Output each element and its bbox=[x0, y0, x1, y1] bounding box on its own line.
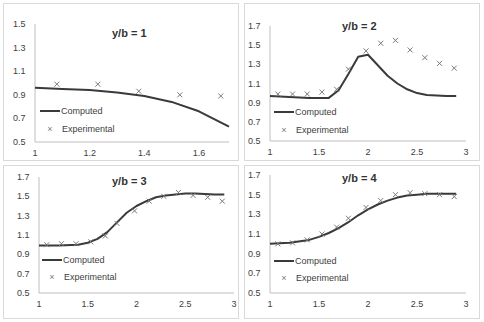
y-tick-label: 0.5 bbox=[13, 137, 26, 147]
legend-experimental-label: Experimental bbox=[62, 124, 115, 134]
x-tick-label: 2.5 bbox=[411, 299, 424, 309]
legend-yb2: Computed × Experimental bbox=[274, 105, 349, 141]
legend-computed-label: Computed bbox=[61, 106, 103, 116]
experimental-marker bbox=[364, 205, 369, 210]
legend-yb3: Computed × Experimental bbox=[42, 253, 117, 287]
legend-x-marker-icon: × bbox=[42, 272, 62, 282]
y-tick-label: 1.1 bbox=[248, 229, 261, 239]
experimental-marker bbox=[290, 92, 295, 97]
legend-line-swatch bbox=[40, 110, 60, 112]
y-tick-label: 0.7 bbox=[13, 113, 26, 123]
y-tick-label: 0.9 bbox=[248, 249, 261, 259]
experimental-marker bbox=[452, 66, 457, 71]
x-tick-label: 1 bbox=[267, 147, 272, 157]
y-tick-label: 1.3 bbox=[13, 43, 26, 53]
y-tick-label: 1.1 bbox=[17, 230, 30, 240]
legend-x-marker-icon: × bbox=[274, 125, 294, 135]
y-tick-label: 0.5 bbox=[17, 288, 30, 298]
experimental-marker bbox=[393, 192, 398, 197]
x-tick-label: 2.5 bbox=[179, 299, 192, 309]
legend-line-swatch bbox=[42, 259, 62, 261]
chart-title-yb4: y/b = 4 bbox=[342, 172, 377, 184]
experimental-marker bbox=[408, 47, 413, 52]
computed-line bbox=[270, 194, 456, 244]
experimental-marker bbox=[136, 89, 141, 94]
y-tick-label: 1.7 bbox=[17, 172, 30, 182]
legend-experimental-label: Experimental bbox=[296, 125, 349, 135]
legend-x-marker-icon: × bbox=[274, 273, 294, 283]
x-tick-label: 1.5 bbox=[313, 299, 326, 309]
y-tick-label: 1.7 bbox=[248, 21, 261, 31]
y-tick-label: 1.3 bbox=[17, 211, 30, 221]
x-tick-label: 1.5 bbox=[81, 299, 94, 309]
legend-line-swatch bbox=[274, 260, 294, 262]
x-tick-label: 1.5 bbox=[313, 147, 326, 157]
y-tick-label: 0.9 bbox=[13, 90, 26, 100]
legend-computed-label: Computed bbox=[63, 255, 105, 265]
x-tick-label: 1 bbox=[36, 299, 41, 309]
y-tick-label: 1.1 bbox=[248, 79, 261, 89]
experimental-marker bbox=[393, 38, 398, 43]
experimental-marker bbox=[54, 82, 59, 87]
y-tick-label: 0.5 bbox=[248, 136, 261, 146]
y-tick-label: 1.7 bbox=[248, 170, 261, 180]
y-tick-label: 1.5 bbox=[13, 19, 26, 29]
experimental-marker bbox=[205, 195, 210, 200]
x-tick-label: 1.6 bbox=[193, 148, 206, 158]
y-tick-label: 1.3 bbox=[248, 59, 261, 69]
x-tick-label: 1 bbox=[267, 299, 272, 309]
y-tick-label: 0.7 bbox=[248, 117, 261, 127]
experimental-marker bbox=[319, 90, 324, 95]
x-tick-label: 2 bbox=[365, 147, 370, 157]
legend-line-swatch bbox=[274, 111, 294, 113]
y-tick-label: 1.5 bbox=[248, 40, 261, 50]
experimental-marker bbox=[220, 199, 225, 204]
chart-title-yb1: y/b = 1 bbox=[112, 27, 147, 39]
x-tick-label: 2.5 bbox=[411, 147, 424, 157]
experimental-marker bbox=[177, 92, 182, 97]
x-tick-label: 3 bbox=[463, 147, 468, 157]
legend-x-marker-icon: × bbox=[40, 124, 60, 134]
x-tick-label: 2 bbox=[134, 299, 139, 309]
y-tick-label: 0.9 bbox=[17, 249, 30, 259]
chart-title-yb3: y/b = 3 bbox=[112, 175, 147, 187]
experimental-marker bbox=[422, 55, 427, 60]
chart-title-yb2: y/b = 2 bbox=[342, 20, 377, 32]
experimental-marker bbox=[218, 93, 223, 98]
y-tick-label: 1.5 bbox=[17, 191, 30, 201]
experimental-marker bbox=[346, 216, 351, 221]
x-tick-label: 2 bbox=[365, 299, 370, 309]
experimental-marker bbox=[452, 194, 457, 199]
y-tick-label: 0.5 bbox=[248, 288, 261, 298]
legend-yb1: Computed × Experimental bbox=[40, 104, 115, 140]
y-tick-label: 1.1 bbox=[13, 66, 26, 76]
experimental-marker bbox=[364, 48, 369, 53]
experimental-marker bbox=[132, 208, 137, 213]
legend-computed-label: Computed bbox=[295, 107, 337, 117]
chart-yb3: 0.50.70.91.11.31.51.711.522.53 bbox=[17, 172, 237, 309]
chart-yb4: 0.50.70.91.11.31.51.711.522.53 bbox=[248, 170, 469, 309]
x-tick-label: 3 bbox=[231, 299, 236, 309]
computed-line bbox=[39, 193, 224, 245]
y-tick-label: 0.9 bbox=[248, 98, 261, 108]
x-tick-label: 1 bbox=[32, 148, 37, 158]
experimental-marker bbox=[305, 92, 310, 97]
legend-experimental-label: Experimental bbox=[296, 273, 349, 283]
y-tick-label: 1.5 bbox=[248, 190, 261, 200]
y-tick-label: 1.3 bbox=[248, 209, 261, 219]
computed-line bbox=[270, 55, 456, 98]
experimental-marker bbox=[95, 82, 100, 87]
legend-yb4: Computed × Experimental bbox=[274, 254, 349, 288]
y-tick-label: 0.7 bbox=[17, 269, 30, 279]
legend-computed-label: Computed bbox=[295, 256, 337, 266]
legend-experimental-label: Experimental bbox=[64, 272, 117, 282]
x-tick-label: 3 bbox=[463, 299, 468, 309]
experimental-marker bbox=[437, 61, 442, 66]
x-tick-label: 1.2 bbox=[83, 148, 96, 158]
experimental-marker bbox=[378, 41, 383, 46]
x-tick-label: 1.4 bbox=[138, 148, 151, 158]
y-tick-label: 0.7 bbox=[248, 268, 261, 278]
